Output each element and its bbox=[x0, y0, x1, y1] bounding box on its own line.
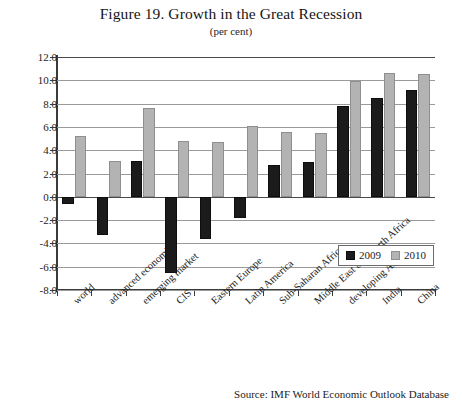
bar-2010 bbox=[212, 142, 224, 197]
bar-2010 bbox=[418, 74, 430, 196]
bar-2009 bbox=[371, 98, 383, 197]
y-axis-tick-mark bbox=[50, 150, 56, 151]
y-axis-tick-mark bbox=[50, 220, 56, 221]
gridline-0.0 bbox=[57, 197, 435, 198]
gridline--2.0 bbox=[57, 220, 435, 221]
bar-2010 bbox=[315, 133, 327, 197]
bar-2009 bbox=[165, 197, 177, 273]
figure-subtitle: (per cent) bbox=[0, 25, 462, 37]
bar-2010 bbox=[109, 161, 121, 197]
bar-2010 bbox=[178, 141, 190, 197]
y-axis-tick-mark bbox=[50, 57, 56, 58]
bar-2010 bbox=[384, 73, 396, 196]
bar-2009 bbox=[268, 165, 280, 196]
figure-title: Figure 19. Growth in the Great Recession bbox=[0, 5, 462, 23]
bar-2009 bbox=[406, 90, 418, 197]
legend-swatch-icon bbox=[346, 251, 355, 260]
figure-container: Figure 19. Growth in the Great Recession… bbox=[0, 0, 462, 415]
bar-2009 bbox=[200, 197, 212, 239]
legend-item: 2010 bbox=[391, 249, 426, 261]
bar-2009 bbox=[131, 161, 143, 197]
legend-item: 2009 bbox=[346, 249, 381, 261]
y-axis-tick-mark bbox=[50, 243, 56, 244]
x-axis-tick-mark bbox=[57, 291, 58, 296]
y-axis-tick-mark bbox=[50, 104, 56, 105]
y-axis-tick-mark bbox=[50, 197, 56, 198]
y-axis-tick-mark bbox=[50, 267, 56, 268]
bar-2010 bbox=[350, 81, 362, 196]
y-axis-labels: 12.010.08.06.04.02.00.0-2.0-4.0-6.0-8.0 bbox=[0, 0, 57, 415]
source-note: Source: IMF World Economic Outlook Datab… bbox=[0, 388, 449, 400]
gridline-12.0 bbox=[57, 57, 435, 58]
bar-2009 bbox=[97, 197, 109, 235]
bar-2010 bbox=[75, 136, 87, 197]
x-axis-tick-mark bbox=[194, 291, 195, 296]
bar-2009 bbox=[303, 162, 315, 197]
bar-2010 bbox=[247, 126, 259, 197]
legend-swatch-icon bbox=[391, 251, 400, 260]
y-axis-tick-mark bbox=[50, 290, 56, 291]
bar-2010 bbox=[281, 132, 293, 197]
gridline-10.0 bbox=[57, 80, 435, 81]
legend-label: 2010 bbox=[404, 249, 426, 261]
legend-label: 2009 bbox=[359, 249, 381, 261]
bar-2010 bbox=[143, 108, 155, 197]
y-axis-tick-mark bbox=[50, 174, 56, 175]
chart-legend: 20092010 bbox=[338, 245, 434, 266]
y-axis-tick-mark bbox=[50, 127, 56, 128]
y-axis-tick-mark bbox=[50, 80, 56, 81]
bar-2009 bbox=[337, 106, 349, 197]
bar-2009 bbox=[234, 197, 246, 218]
bar-2009 bbox=[62, 197, 74, 204]
